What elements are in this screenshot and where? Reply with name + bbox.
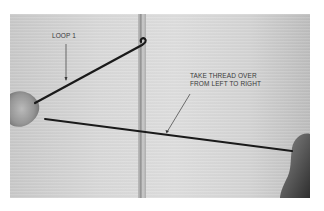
instruction-photo: LOOP 1 TAKE THREAD OVER FROM LEFT TO RIG… xyxy=(10,14,310,198)
take-thread-line-1: TAKE THREAD OVER xyxy=(190,72,261,80)
thread-across xyxy=(45,119,292,151)
left-hand xyxy=(10,91,39,127)
loop-1-label: LOOP 1 xyxy=(52,32,76,40)
take-thread-leader xyxy=(167,94,190,132)
take-thread-label: TAKE THREAD OVER FROM LEFT TO RIGHT xyxy=(190,72,261,88)
thread-loop xyxy=(35,38,146,103)
loop-1-text: LOOP 1 xyxy=(52,32,76,39)
photo-illustration xyxy=(10,14,310,198)
take-thread-line-2: FROM LEFT TO RIGHT xyxy=(190,80,261,88)
right-hand xyxy=(280,134,310,198)
